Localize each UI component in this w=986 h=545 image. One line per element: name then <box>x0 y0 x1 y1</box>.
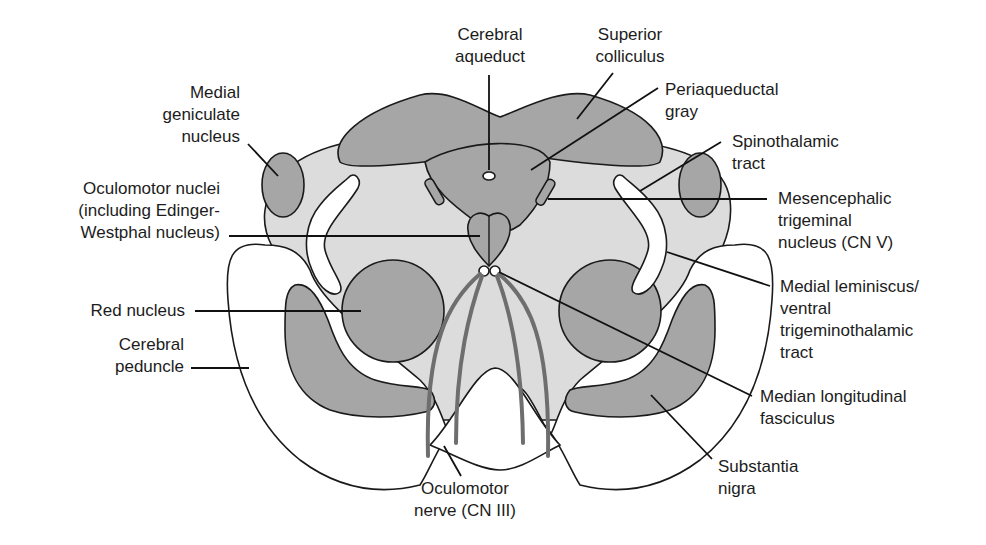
label-line: Substantia <box>718 456 798 478</box>
label-line: nucleus (CN V) <box>778 232 893 254</box>
label-line: Oculomotor <box>395 478 535 500</box>
label-line: fasciculus <box>760 408 907 430</box>
label-line: Cerebral <box>80 334 184 356</box>
label-line: trigeminothalamic <box>780 320 919 342</box>
label-line: Spinothalamic <box>732 131 839 153</box>
label-line: Medial <box>120 82 240 104</box>
label-oculomotor-nuclei: Oculomotor nuclei (including Edinger- We… <box>30 178 220 244</box>
label-line: Red nucleus <box>40 300 185 322</box>
label-cerebral-aqueduct: Cerebral aqueduct <box>440 24 540 68</box>
label-medial-geniculate: Medial geniculate nucleus <box>120 82 240 148</box>
label-line: tract <box>732 153 839 175</box>
label-line: colliculus <box>580 46 680 68</box>
label-line: nerve (CN III) <box>395 500 535 522</box>
medial-geniculate-left <box>262 153 304 217</box>
label-line: Westphal nucleus) <box>30 222 220 244</box>
label-line: (including Edinger- <box>30 200 220 222</box>
label-line: ventral <box>780 298 919 320</box>
label-line: Periaqueductal <box>665 79 778 101</box>
label-superior-colliculus: Superior colliculus <box>580 24 680 68</box>
label-line: nucleus <box>120 126 240 148</box>
label-cerebral-peduncle: Cerebral peduncle <box>80 334 184 378</box>
label-line: aqueduct <box>440 46 540 68</box>
label-periaqueductal-gray: Periaqueductal gray <box>665 79 778 123</box>
label-line: trigeminal <box>778 210 893 232</box>
label-line: nigra <box>718 478 798 500</box>
label-line: Superior <box>580 24 680 46</box>
label-red-nucleus: Red nucleus <box>40 300 185 322</box>
label-median-longitudinal-fasciculus: Median longitudinal fasciculus <box>760 386 907 430</box>
label-line: Medial leminiscus/ <box>780 276 919 298</box>
label-mesencephalic-trigeminal: Mesencephalic trigeminal nucleus (CN V) <box>778 188 893 254</box>
label-spinothalamic-tract: Spinothalamic tract <box>732 131 839 175</box>
label-line: gray <box>665 101 778 123</box>
cerebral-aqueduct <box>483 172 495 180</box>
label-line: tract <box>780 342 919 364</box>
label-line: Oculomotor nuclei <box>30 178 220 200</box>
label-medial-lemniscus: Medial leminiscus/ ventral trigeminothal… <box>780 276 919 364</box>
label-line: Median longitudinal <box>760 386 907 408</box>
label-line: peduncle <box>80 356 184 378</box>
label-line: Mesencephalic <box>778 188 893 210</box>
label-oculomotor-nerve: Oculomotor nerve (CN III) <box>395 478 535 522</box>
label-line: geniculate <box>120 104 240 126</box>
label-line: Cerebral <box>440 24 540 46</box>
label-substantia-nigra: Substantia nigra <box>718 456 798 500</box>
